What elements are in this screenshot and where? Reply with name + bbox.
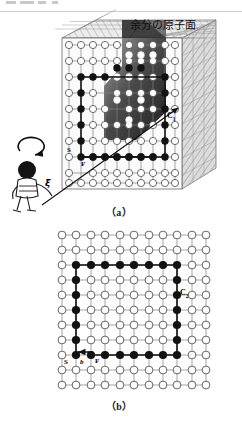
rotation-arrow-icon [18,137,44,155]
extra-atomic-plane-label: 余分の原子面 [130,16,196,32]
label-f-panel-b: F [95,357,99,365]
label-b-panel-b: b [80,358,84,366]
label-xi-panel-a: ξ [45,178,50,188]
observer-figure [13,137,52,212]
label-s-panel-b: S [64,358,68,366]
caption-b: （b） [106,398,132,413]
panel-a-crystal [13,9,216,212]
label-f-panel-a: F [81,160,85,168]
label-c2-sub: 2 [186,293,189,299]
observer-feet [13,210,36,212]
observer-head [18,161,36,179]
caption-a: （a） [106,204,132,219]
label-c1-panel-a: C1 [167,111,176,122]
label-c2-panel-b: C2 [180,288,189,299]
label-c1-sub: 1 [173,116,176,122]
label-s-panel-a: S [67,146,71,154]
observer-body [16,178,38,198]
